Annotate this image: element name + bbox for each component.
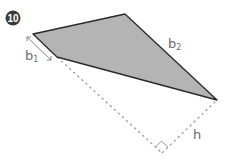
b2-label: b2 bbox=[168, 36, 181, 52]
problem-number-badge: 10 bbox=[6, 11, 21, 26]
height-dashed bbox=[162, 100, 217, 153]
badge-number: 10 bbox=[7, 13, 19, 24]
b1-label: b1 bbox=[25, 48, 38, 64]
trapezoid-shape bbox=[33, 14, 217, 100]
right-angle-marker bbox=[155, 141, 168, 147]
trapezoid-diagram: 10 b1 b2 h bbox=[0, 0, 230, 160]
h-label: h bbox=[193, 127, 201, 142]
